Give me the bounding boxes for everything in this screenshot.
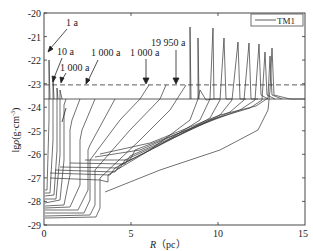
y-tick-label: -24 [28, 102, 41, 113]
y-axis-label: lgρ(g·cm-3) [10, 108, 22, 153]
annotation-1000a-second: 1 000 a [91, 47, 121, 58]
y-tick-label: -28 [28, 196, 41, 207]
annotation-19950a: 19 950 a [151, 37, 186, 48]
y-tick-label: -25 [28, 126, 41, 137]
arrow-head [60, 77, 64, 83]
x-tick-labels: 0 5 10 15 [42, 228, 309, 239]
x-axis-label: R（pc） [149, 239, 186, 250]
y-tick-label: -29 [28, 220, 41, 231]
y-tick-label: -21 [28, 32, 41, 43]
density-curves [45, 27, 305, 218]
y-tick-label: -27 [28, 173, 41, 184]
annotation-1a: 1 a [66, 17, 79, 28]
x-tick-label: 0 [42, 228, 47, 239]
legend: TM1 [251, 14, 303, 26]
arrow-head [143, 78, 149, 84]
arrow-head [52, 76, 56, 82]
y-tick-label: -22 [28, 55, 41, 66]
annotation-10a: 10 a [57, 46, 75, 57]
annotation-1000a-third: 1 000 a [130, 47, 160, 58]
arrow-head [173, 78, 179, 84]
y-tick-label: -20 [28, 8, 41, 19]
x-tick-label: 10 [213, 228, 223, 239]
annotation-1000a-first: 1 000 a [60, 62, 90, 73]
annotations: 1 a 10 a 1 000 a 1 000 a 1 000 a 19 950 … [57, 17, 186, 73]
x-tick-label: 5 [129, 228, 134, 239]
legend-label: TM1 [277, 16, 295, 26]
y-tick-label: -23 [28, 79, 41, 90]
x-tick-label: 15 [298, 228, 308, 239]
y-tick-label: -26 [28, 149, 41, 160]
y-tick-labels: -20 -21 -22 -23 -24 -25 -26 -27 -28 -29 [28, 8, 41, 231]
density-profile-chart: -20 -21 -22 -23 -24 -25 -26 -27 -28 -29 … [0, 0, 313, 251]
